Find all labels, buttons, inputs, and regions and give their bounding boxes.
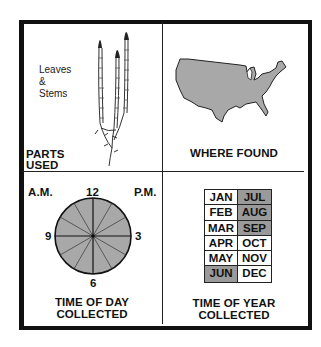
pm-label: P.M. [134,186,157,198]
clock-tick-3: 3 [135,230,142,242]
clock-tick-9: 9 [45,230,52,242]
month-cell-jun: JUN [205,266,238,281]
parts-label-ampersand: & [39,76,46,88]
month-cell-nov: NOV [238,251,271,266]
vertical-divider [162,22,163,324]
month-cell-may: MAY [205,251,238,266]
month-cell-feb: FEB [205,205,238,220]
parts-label-leaves: Leaves [39,64,71,76]
month-cell-sep: SEP [238,221,271,236]
horsetail-plant-icon [88,28,148,168]
time-of-year-title-line2: COLLECTED [164,309,304,321]
month-cell-jan: JAN [205,190,238,205]
usa-map-icon [174,56,294,126]
clock-tick-6: 6 [90,277,97,289]
month-cell-jul: JUL [238,190,271,205]
parts-used-title-line2: USED [26,159,58,171]
horizontal-divider [22,171,304,172]
time-of-day-title-line1: TIME OF DAY [22,296,162,308]
time-of-year-title-line1: TIME OF YEAR [164,297,304,309]
am-label: A.M. [28,186,53,198]
month-cell-mar: MAR [205,221,238,236]
month-cell-oct: OCT [238,236,271,251]
parts-label-stems: Stems [39,88,67,100]
month-cell-apr: APR [205,236,238,251]
month-cell-aug: AUG [238,205,271,220]
clock-dial-icon [53,196,133,276]
time-of-day-title-line2: COLLECTED [22,308,162,320]
month-cell-dec: DEC [238,266,271,281]
month-grid: JAN JUL FEB AUG MAR SEP APR OCT MAY NOV … [204,189,272,283]
where-found-title: WHERE FOUND [164,147,304,159]
